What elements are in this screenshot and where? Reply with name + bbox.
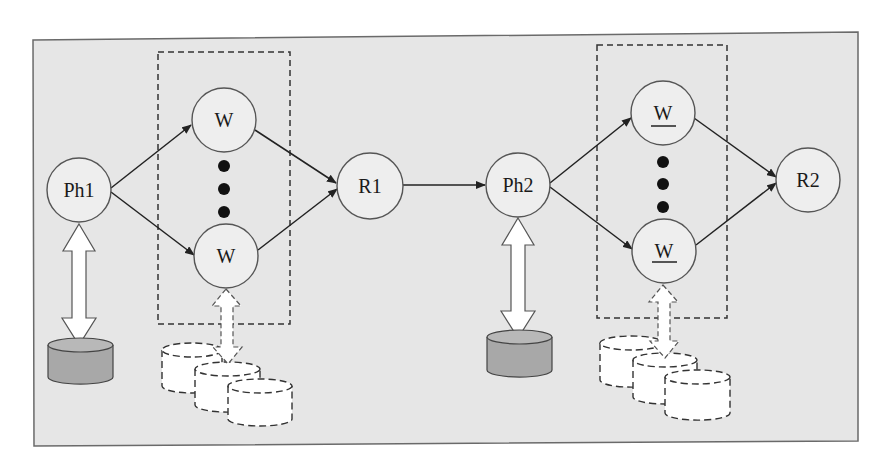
node-r1: R1 (337, 153, 403, 219)
svg-text:Ph1: Ph1 (63, 179, 94, 201)
svg-text:W: W (655, 240, 674, 262)
node-r2: R2 (776, 148, 840, 212)
svg-text:W: W (217, 245, 236, 267)
database-icon (228, 379, 292, 426)
ellipsis-icon (657, 156, 669, 213)
svg-text:R1: R1 (358, 175, 381, 197)
database-icon (665, 370, 730, 420)
database-icon (48, 338, 113, 384)
node-w1-bottom: W (194, 224, 258, 288)
ellipsis-icon (218, 160, 230, 218)
svg-text:R2: R2 (796, 169, 819, 191)
node-ph1: Ph1 (47, 158, 111, 222)
node-w2-bottom: W (632, 219, 696, 283)
svg-text:W: W (654, 102, 673, 124)
node-w2-top: W (631, 81, 695, 145)
node-ph2: Ph2 (486, 153, 550, 217)
workflow-diagram: Ph1 W W R1 Ph2 W W R2 (0, 0, 885, 463)
node-w1-top: W (192, 88, 256, 152)
diagram-frame (33, 32, 858, 446)
database-icon (487, 330, 552, 377)
svg-text:Ph2: Ph2 (502, 174, 533, 196)
svg-text:W: W (215, 109, 234, 131)
